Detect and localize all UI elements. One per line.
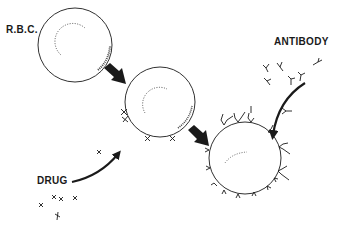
rbc-cell <box>38 8 112 82</box>
antibody-label: ANTIBODY <box>274 36 329 47</box>
drug-coated-rbc-cell <box>121 67 195 141</box>
free-antibody-icon <box>263 58 322 114</box>
arrow-drug-cell-to-antibody-cell <box>188 125 209 146</box>
arrow-rbc-to-drug-cell <box>104 63 126 84</box>
drug-label: DRUG <box>37 175 68 186</box>
diagram-canvas <box>0 0 337 227</box>
rbc-label: R.B.C. <box>6 24 38 35</box>
drug-curved-arrow <box>72 154 118 182</box>
antibody-curved-arrow <box>273 83 305 135</box>
